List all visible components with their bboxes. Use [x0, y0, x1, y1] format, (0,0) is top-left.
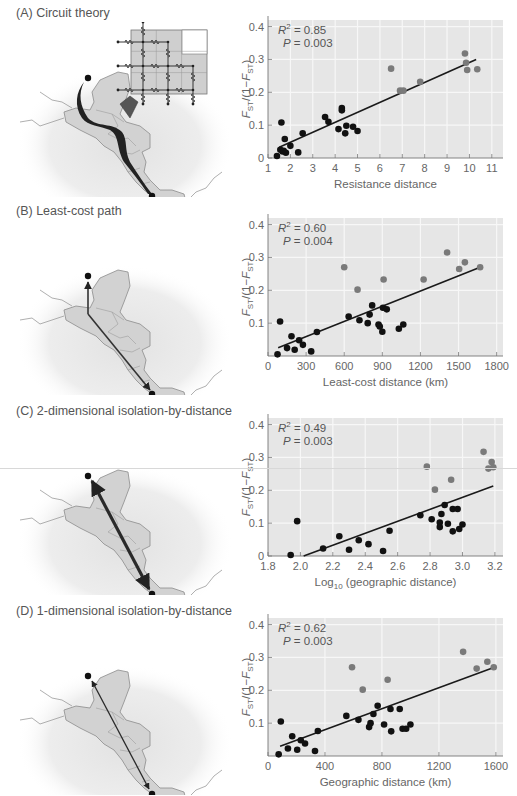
- y-tick-label: 0.1: [249, 119, 264, 131]
- central-america-map: [0, 620, 255, 795]
- data-point-dark: [355, 537, 362, 544]
- x-tick-label: 1500: [446, 360, 470, 372]
- x-tick-label: 10: [463, 162, 475, 174]
- data-point-dark: [383, 306, 390, 313]
- data-point-gray: [462, 50, 469, 57]
- data-point-gray: [417, 78, 424, 85]
- data-point-dark: [379, 328, 386, 335]
- y-tick-label: 0.4: [249, 219, 264, 231]
- panel-b: (B) Least-cost path0.10.20.30.4030060090…: [0, 198, 517, 397]
- r-squared-annotation: R2 = 0.60: [278, 220, 326, 234]
- scan-line-artifact: [0, 468, 517, 469]
- data-point-gray: [359, 686, 366, 693]
- data-point-dark: [370, 711, 377, 718]
- x-tick-label: 3.0: [455, 560, 470, 572]
- data-point-dark: [436, 524, 443, 531]
- x-tick-label: 3.2: [487, 560, 502, 572]
- data-point-dark: [302, 740, 309, 747]
- p-value-annotation: P = 0.003: [283, 635, 333, 647]
- data-point-gray: [474, 66, 481, 73]
- data-point-dark: [345, 313, 352, 320]
- data-point-dark: [300, 342, 307, 349]
- data-point-dark: [387, 706, 394, 713]
- data-point-dark: [284, 345, 291, 352]
- x-tick-label: 1200: [427, 760, 451, 772]
- data-point-gray: [460, 649, 467, 656]
- data-point-dark: [374, 702, 381, 709]
- data-point-gray: [384, 676, 391, 683]
- data-point-dark: [380, 548, 387, 555]
- data-point-dark: [320, 545, 327, 552]
- site-dot-north: [85, 273, 91, 279]
- data-point-dark: [325, 119, 332, 126]
- data-point-dark: [364, 320, 371, 327]
- x-tick-label: 300: [297, 360, 315, 372]
- data-point-dark: [288, 333, 295, 340]
- data-point-gray: [444, 249, 451, 256]
- x-tick-label: 2.2: [325, 560, 340, 572]
- x-tick-label: 7: [399, 162, 405, 174]
- data-point-dark: [441, 502, 448, 509]
- data-point-dark: [417, 512, 424, 519]
- panel-title: (A) Circuit theory: [16, 6, 110, 20]
- x-axis-label: Log10 (geographic distance): [315, 576, 457, 591]
- x-tick-label: 2.0: [293, 560, 308, 572]
- data-point-dark: [294, 746, 301, 753]
- x-tick-label: 3: [310, 162, 316, 174]
- data-point-dark: [366, 311, 373, 318]
- x-axis-label: Geographic distance (km): [320, 776, 452, 788]
- data-point-gray: [420, 276, 427, 283]
- data-point-dark: [356, 317, 363, 324]
- data-point-dark: [291, 346, 298, 353]
- y-tick-label: 0.1: [249, 317, 264, 329]
- data-point-dark: [275, 751, 282, 758]
- data-point-dark: [407, 721, 414, 728]
- y-tick-label: 0.1: [249, 717, 264, 729]
- data-point-dark: [314, 329, 321, 336]
- data-point-dark: [283, 149, 290, 156]
- x-tick-label: 2: [287, 162, 293, 174]
- data-point-dark: [277, 318, 284, 325]
- x-tick-label: 4: [332, 162, 338, 174]
- data-point-gray: [341, 264, 348, 271]
- data-point-dark: [294, 518, 301, 525]
- data-point-dark: [343, 123, 350, 130]
- data-point-dark: [369, 302, 376, 309]
- data-point-dark: [287, 552, 294, 559]
- data-point-gray: [448, 476, 455, 483]
- x-tick-label: 5: [354, 162, 360, 174]
- data-point-dark: [428, 516, 435, 523]
- data-point-dark: [289, 733, 296, 740]
- data-point-gray: [464, 67, 471, 74]
- data-point-gray: [477, 264, 484, 271]
- panel-title: (C) 2-dimensional isolation-by-distance: [16, 404, 232, 418]
- data-point-gray: [400, 87, 407, 94]
- data-point-gray: [456, 266, 463, 273]
- x-tick-label: 1: [265, 162, 271, 174]
- data-point-dark: [278, 718, 285, 725]
- x-tick-label: 800: [373, 760, 391, 772]
- data-point-dark: [400, 321, 407, 328]
- data-point-dark: [386, 527, 393, 534]
- panel-a: (A) Circuit theory00.10.20.30.4123456789…: [0, 0, 517, 199]
- data-point-dark: [396, 706, 403, 713]
- data-point-dark: [445, 521, 452, 528]
- scatter-chart-c: 00.10.20.30.41.82.02.22.42.62.83.03.2Log…: [238, 398, 517, 597]
- r-squared-annotation: R2 = 0.85: [278, 22, 326, 36]
- x-tick-label: 0: [265, 360, 271, 372]
- x-tick-label: 11: [486, 162, 497, 174]
- data-point-dark: [438, 511, 445, 518]
- x-tick-label: 2.8: [422, 560, 437, 572]
- data-point-dark: [295, 149, 302, 156]
- data-point-dark: [274, 351, 281, 358]
- x-tick-label: 0: [265, 760, 271, 772]
- x-tick-label: 1200: [408, 360, 432, 372]
- x-tick-label: 2.4: [358, 560, 373, 572]
- data-point-gray: [432, 486, 439, 493]
- x-tick-label: 6: [377, 162, 383, 174]
- data-point-dark: [365, 541, 372, 548]
- x-tick-label: 600: [335, 360, 353, 372]
- p-value-annotation: P = 0.004: [283, 235, 333, 247]
- data-point-dark: [312, 748, 319, 755]
- data-point-dark: [339, 107, 346, 114]
